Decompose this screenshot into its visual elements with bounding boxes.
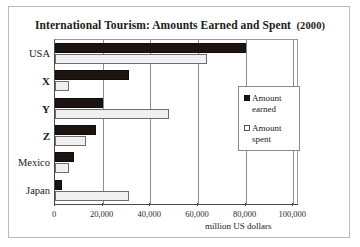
bar-mexico-spent [55,163,69,173]
figure-frame: International Tourism: Amounts Earned an… [8,6,350,238]
bar-usa-spent [55,54,207,64]
chart-figure: International Tourism: Amounts Earned an… [0,0,360,247]
category-label-y: Y [42,104,50,115]
x-tick-mark [197,203,198,206]
category-label-usa: USA [29,49,50,60]
category-label-z: Z [43,131,50,142]
bar-japan-earned [55,180,62,190]
bar-x-earned [55,70,129,80]
x-tick-mark [245,203,246,206]
chart-title-text: International Tourism: Amounts Earned an… [35,19,291,31]
x-tick-label: 0 [52,209,56,219]
bar-x-spent [55,81,69,91]
legend-label-earned: Amountearned [252,93,282,114]
category-label-japan: Japan [26,186,50,197]
x-axis-title: million US dollars [205,221,272,231]
category-label-mexico: Mexico [18,158,50,169]
chart-title: International Tourism: Amounts Earned an… [9,19,351,31]
legend-item-amount-spent[interactable]: Amountspent [244,123,295,144]
x-tick-label: 40,000 [138,209,161,219]
x-tick-label: 20,000 [90,209,113,219]
chart-legend: Amountearned Amountspent [238,86,300,151]
legend-swatch-spent-icon [244,125,250,131]
bar-usa-earned [55,43,246,53]
x-tick-label: 80,000 [233,209,256,219]
x-tick-mark [292,203,293,206]
bar-japan-spent [55,191,129,201]
chart-row: Japan [55,177,298,204]
bar-y-earned [55,98,103,108]
legend-item-amount-earned[interactable]: Amountearned [244,93,295,114]
bar-z-earned [55,125,96,135]
bar-y-spent [55,109,169,119]
legend-label-spent: Amountspent [252,123,282,144]
x-tick-label: 100,000 [278,209,306,219]
category-label-x: X [42,76,50,87]
bar-mexico-earned [55,152,74,162]
legend-swatch-earned-icon [244,95,250,101]
chart-title-year: (2000) [297,20,326,31]
x-tick-mark [149,203,150,206]
chart-row: USA [55,40,298,67]
x-tick-label: 60,000 [185,209,208,219]
bar-z-spent [55,136,86,146]
x-tick-mark [54,203,55,206]
x-tick-mark [102,203,103,206]
chart-row: Mexico [55,149,298,176]
